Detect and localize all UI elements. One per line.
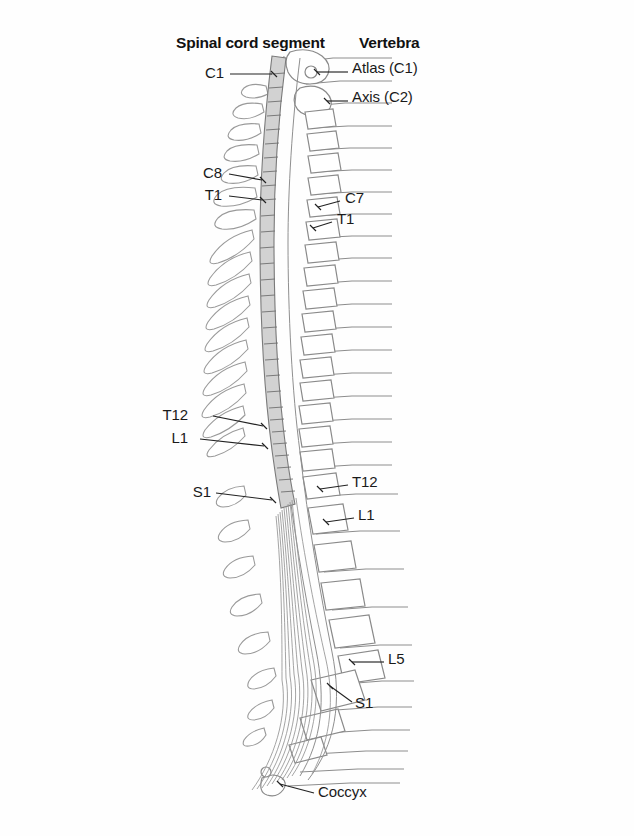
cord-label-t1: T1	[205, 186, 222, 203]
vertebra-label-t1: T1	[337, 210, 354, 227]
cord-label-c8: C8	[203, 164, 222, 181]
vertebra-label-t12: T12	[352, 473, 378, 490]
vertebra-label-l1: L1	[358, 506, 375, 523]
vertebra-label-c7: C7	[345, 189, 364, 206]
vertebra-label-axis-c2: Axis (C2)	[352, 88, 413, 105]
vertebra-label-atlas-c1: Atlas (C1)	[352, 59, 418, 76]
vertebra-label-s1: S1	[355, 694, 373, 711]
spinous-processes-lumbar	[216, 486, 276, 746]
spine-diagram	[0, 0, 634, 836]
spinal-cord	[260, 56, 295, 508]
cord-label-l1: L1	[172, 429, 189, 446]
cord-label-t12: T12	[162, 406, 188, 423]
vertebra-label-coccyx: Coccyx	[318, 783, 367, 800]
cord-label-c1: C1	[205, 64, 224, 81]
cord-label-s1: S1	[193, 483, 211, 500]
vertebra-label-l5: L5	[388, 650, 405, 667]
figure-canvas: Spinal cord segment Vertebra	[0, 0, 634, 836]
